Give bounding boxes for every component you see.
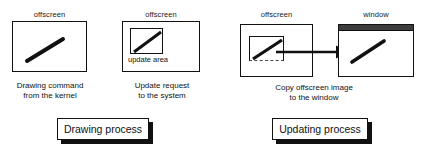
window-destination-surface [338, 24, 414, 77]
offscreen-drawing-surface [12, 21, 87, 72]
offscreen-update-surface: update area [122, 21, 200, 72]
window-destination-label: window [338, 10, 414, 19]
updating-process-tag: Updating process [272, 118, 368, 140]
diagonal-line-icon [131, 29, 164, 55]
diagram-canvas: offscreen Drawing command from the kerne… [0, 0, 426, 151]
offscreen-drawing-caption: Drawing command from the kernel [0, 81, 100, 100]
drawing-process-tag-label: Drawing process [64, 123, 142, 135]
updating-process-tag-label: Updating process [279, 123, 361, 135]
tag-box: Updating process [272, 118, 368, 140]
update-area-box [130, 28, 163, 54]
diagonal-line-icon [13, 22, 88, 73]
drawing-process-tag: Drawing process [57, 118, 149, 140]
offscreen-source-label: offscreen [240, 10, 313, 19]
offscreen-update-label: offscreen [122, 10, 200, 19]
updating-process-caption: Copy offscreen image to the window [250, 83, 378, 102]
update-area-label: update area [128, 55, 198, 64]
diagonal-line-icon [339, 25, 415, 78]
offscreen-update-caption: Update request to the system [112, 81, 212, 100]
offscreen-drawing-label: offscreen [12, 10, 87, 19]
tag-box: Drawing process [57, 118, 149, 140]
